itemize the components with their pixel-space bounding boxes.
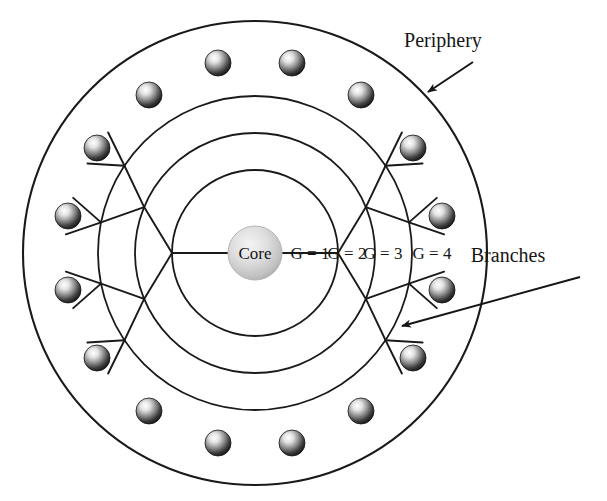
branch-segment bbox=[386, 163, 423, 165]
branch-segment bbox=[386, 132, 402, 165]
branch-segment bbox=[386, 340, 402, 373]
generation-label-3: G = 3 bbox=[364, 244, 403, 263]
periphery-label: Periphery bbox=[404, 29, 482, 52]
branch-segment bbox=[124, 299, 144, 340]
branch-segment bbox=[366, 284, 409, 299]
branch-segment bbox=[366, 299, 386, 340]
peripheral-node bbox=[429, 203, 455, 229]
peripheral-node bbox=[429, 277, 455, 303]
peripheral-node bbox=[348, 82, 374, 108]
peripheral-node bbox=[84, 135, 110, 161]
generation-label-1: G = 1 bbox=[291, 244, 330, 263]
branch-segment bbox=[108, 132, 124, 165]
core-label: Core bbox=[238, 244, 271, 263]
dendrimer-figure: Core G = 1G = 2G = 3G = 4 PeripheryBranc… bbox=[0, 0, 607, 501]
peripheral-node bbox=[400, 345, 426, 371]
peripheral-node bbox=[55, 203, 81, 229]
branch-segment bbox=[108, 340, 124, 373]
branch-segment bbox=[101, 284, 144, 299]
peripheral-node bbox=[205, 50, 231, 76]
dendrimer-canvas: Core G = 1G = 2G = 3G = 4 PeripheryBranc… bbox=[0, 0, 607, 501]
peripheral-node bbox=[205, 430, 231, 456]
peripheral-node bbox=[279, 50, 305, 76]
peripheral-node bbox=[84, 345, 110, 371]
branch-segment bbox=[386, 340, 423, 342]
core-group: Core bbox=[228, 226, 282, 280]
generation-label-2: G = 2 bbox=[328, 244, 367, 263]
peripheral-node bbox=[136, 82, 162, 108]
generation-labels-group: G = 1G = 2G = 3G = 4 bbox=[291, 244, 452, 263]
annotations-group: PeripheryBranches bbox=[402, 29, 580, 326]
branch-segment bbox=[144, 207, 172, 253]
branch-segment bbox=[87, 340, 124, 342]
peripheral-node bbox=[279, 430, 305, 456]
peripheral-node bbox=[400, 135, 426, 161]
branch-segment bbox=[144, 253, 172, 299]
branch-segment bbox=[87, 163, 124, 165]
branch-segment bbox=[366, 207, 409, 222]
peripheral-node bbox=[348, 398, 374, 424]
generation-label-4: G = 4 bbox=[413, 244, 452, 263]
branch-segment bbox=[124, 166, 144, 207]
peripheral-node bbox=[136, 398, 162, 424]
peripheral-node bbox=[55, 277, 81, 303]
branch-segment bbox=[101, 207, 144, 222]
branch-segment bbox=[366, 166, 386, 207]
periphery-arrow bbox=[428, 62, 473, 92]
branches-label: Branches bbox=[471, 244, 546, 266]
